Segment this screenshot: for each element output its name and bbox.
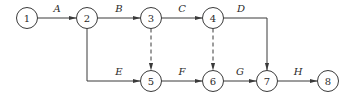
activity-label-h: H	[293, 66, 303, 77]
activity-label-b: B	[114, 3, 122, 14]
node-1: 1	[17, 8, 38, 29]
activity-label-a: A	[52, 3, 60, 14]
network-diagram: ABCDEFGH 12345678	[0, 0, 353, 102]
activity-label-e: E	[114, 66, 123, 77]
node-4: 4	[203, 8, 224, 29]
activity-label-g: G	[236, 66, 244, 77]
node-7: 7	[257, 71, 278, 92]
node-2: 2	[77, 8, 98, 29]
node-label-6: 6	[210, 76, 216, 87]
node-label-3: 3	[148, 13, 154, 24]
node-5: 5	[141, 71, 162, 92]
activity-label-f: F	[178, 66, 187, 77]
node-8: 8	[318, 71, 339, 92]
activity-label-c: C	[178, 3, 186, 14]
node-3: 3	[141, 8, 162, 29]
node-label-7: 7	[264, 76, 270, 87]
activity-arrow-d	[224, 18, 268, 71]
node-6: 6	[203, 71, 224, 92]
node-label-8: 8	[325, 76, 331, 87]
node-label-1: 1	[24, 13, 30, 24]
node-label-2: 2	[84, 13, 90, 24]
node-label-5: 5	[148, 76, 154, 87]
activity-label-d: D	[236, 3, 245, 14]
node-label-4: 4	[210, 13, 216, 24]
activity-arrow-e	[87, 29, 141, 82]
